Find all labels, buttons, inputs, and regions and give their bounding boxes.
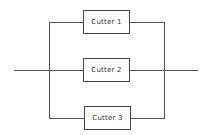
branch-3-right-line (130, 118, 164, 119)
cutter-1-label: Cutter 1 (91, 18, 121, 26)
cutter-3-label: Cutter 3 (92, 114, 122, 122)
input-line (14, 70, 49, 71)
parallel-system-diagram: Cutter 1 Cutter 2 Cutter 3 (0, 0, 210, 135)
branch-2-left-line (49, 70, 83, 71)
output-line (164, 70, 198, 71)
cutter-3-block: Cutter 3 (84, 106, 131, 130)
branch-3-left-line (49, 118, 84, 119)
cutter-1-block: Cutter 1 (83, 10, 130, 34)
cutter-2-label: Cutter 2 (91, 66, 121, 74)
right-bus-line (164, 22, 165, 119)
cutter-2-block: Cutter 2 (83, 58, 130, 82)
branch-1-right-line (129, 22, 164, 23)
branch-2-right-line (129, 70, 164, 71)
branch-1-left-line (49, 22, 83, 23)
